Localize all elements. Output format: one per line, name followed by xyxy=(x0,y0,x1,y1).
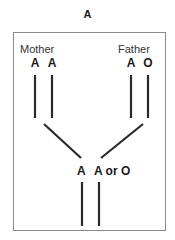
offspring-allele-1: A xyxy=(77,164,86,178)
offspring-allele-2: A or O xyxy=(94,164,130,178)
mother-inheritance-line xyxy=(44,124,81,158)
father-inheritance-line xyxy=(101,124,143,158)
inheritance-lines xyxy=(0,0,175,240)
